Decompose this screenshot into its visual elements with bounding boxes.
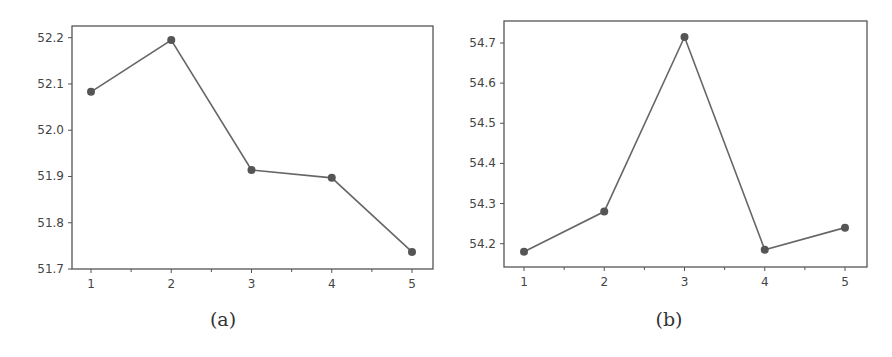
x-tick-label: 3 — [681, 275, 689, 289]
x-tick-label: 2 — [600, 275, 608, 289]
data-point-marker — [167, 36, 175, 44]
plot-frame — [504, 21, 867, 267]
data-point-marker — [248, 166, 256, 174]
y-tick-label: 54.6 — [469, 76, 496, 90]
y-tick-label: 54.7 — [469, 36, 496, 50]
data-line — [524, 37, 845, 252]
chart-panel-a: 51.751.851.952.052.152.212345 (a) — [0, 0, 446, 357]
y-tick-label: 54.3 — [469, 197, 496, 211]
y-tick-label: 52.0 — [37, 123, 64, 137]
x-tick-label: 4 — [328, 277, 336, 291]
data-point-marker — [520, 248, 528, 256]
x-tick-label: 1 — [520, 275, 528, 289]
data-point-marker — [841, 224, 849, 232]
line-chart-a: 51.751.851.952.052.152.212345 — [0, 0, 446, 357]
line-chart-b: 54.254.354.454.554.654.712345 — [446, 0, 892, 357]
caption-a: (a) — [0, 308, 446, 330]
x-tick-label: 1 — [87, 277, 95, 291]
y-tick-label: 54.4 — [469, 156, 496, 170]
y-tick-label: 52.2 — [37, 31, 64, 45]
x-tick-label: 5 — [841, 275, 849, 289]
x-tick-label: 5 — [408, 277, 416, 291]
caption-b: (b) — [446, 308, 892, 330]
data-line — [91, 40, 412, 252]
y-tick-label: 51.8 — [37, 216, 64, 230]
data-point-marker — [328, 174, 336, 182]
y-tick-label: 54.2 — [469, 237, 496, 251]
x-tick-label: 4 — [761, 275, 769, 289]
y-tick-label: 52.1 — [37, 77, 64, 91]
data-point-marker — [408, 248, 416, 256]
plot-frame — [72, 26, 433, 269]
x-tick-label: 2 — [167, 277, 175, 291]
y-tick-label: 51.7 — [37, 262, 64, 276]
data-point-marker — [600, 208, 608, 216]
x-tick-label: 3 — [248, 277, 256, 291]
data-point-marker — [87, 88, 95, 96]
data-point-marker — [681, 33, 689, 41]
chart-panel-b: 54.254.354.454.554.654.712345 (b) — [446, 0, 892, 357]
data-point-marker — [761, 246, 769, 254]
y-tick-label: 51.9 — [37, 169, 64, 183]
y-tick-label: 54.5 — [469, 116, 496, 130]
